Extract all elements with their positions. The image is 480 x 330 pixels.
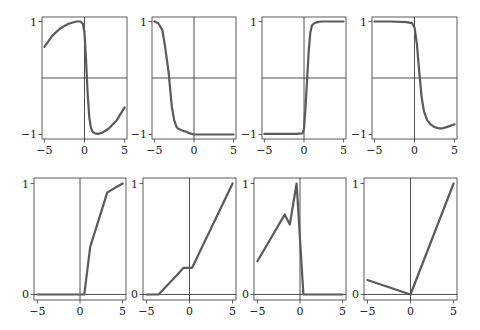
x-tick-label: −5 <box>249 305 265 318</box>
x-tick-label: 5 <box>450 305 457 318</box>
subplot-top-2: −505−11 <box>131 16 237 157</box>
x-tick-label: 0 <box>411 144 418 157</box>
x-tick-label: 5 <box>119 305 126 318</box>
x-tick-label: 5 <box>340 144 347 157</box>
x-tick-label: 0 <box>407 305 414 318</box>
y-tick-label: −1 <box>131 128 147 141</box>
y-tick-label: 0 <box>352 288 359 301</box>
y-tick-label: 1 <box>140 16 147 29</box>
x-tick-label: −5 <box>366 144 382 157</box>
y-tick-label: 0 <box>22 288 29 301</box>
y-tick-label: 1 <box>360 16 367 29</box>
x-tick-label: −5 <box>36 144 52 157</box>
activation-function-grid: −505−11−505−11−505−11−505−11−50501−50501… <box>0 0 480 330</box>
y-tick-label: 1 <box>30 16 37 29</box>
x-tick-label: 0 <box>301 144 308 157</box>
x-tick-label: 5 <box>451 144 458 157</box>
x-tick-label: 5 <box>230 144 237 157</box>
x-tick-label: 5 <box>121 144 128 157</box>
y-tick-label: 1 <box>352 178 359 191</box>
y-tick-label: −1 <box>21 128 37 141</box>
subplot-top-3: −505−11 <box>241 16 347 157</box>
x-tick-label: 5 <box>229 305 236 318</box>
x-tick-label: 0 <box>297 305 304 318</box>
x-tick-label: −5 <box>138 305 154 318</box>
subplot-top-4: −505−11 <box>351 16 458 157</box>
x-tick-label: −5 <box>146 144 162 157</box>
x-tick-label: 5 <box>339 305 346 318</box>
y-tick-label: 1 <box>22 178 29 191</box>
x-tick-label: −5 <box>359 305 375 318</box>
x-tick-label: −5 <box>256 144 272 157</box>
x-tick-label: 0 <box>81 144 88 157</box>
y-tick-label: −1 <box>351 128 367 141</box>
subplot-bottom-4: −50501 <box>352 178 457 318</box>
subplot-top-1: −505−11 <box>21 16 128 157</box>
y-tick-label: 1 <box>250 16 257 29</box>
y-tick-label: 1 <box>242 178 249 191</box>
x-tick-label: 0 <box>186 305 193 318</box>
y-tick-label: 0 <box>131 288 138 301</box>
x-tick-label: 0 <box>77 305 84 318</box>
subplot-bottom-1: −50501 <box>22 178 126 318</box>
y-tick-label: −1 <box>241 128 257 141</box>
subplot-bottom-2: −50501 <box>131 178 236 318</box>
x-tick-label: −5 <box>29 305 45 318</box>
y-tick-label: 1 <box>131 178 138 191</box>
x-tick-label: 0 <box>191 144 198 157</box>
y-tick-label: 0 <box>242 288 249 301</box>
subplot-bottom-3: −50501 <box>242 178 346 318</box>
